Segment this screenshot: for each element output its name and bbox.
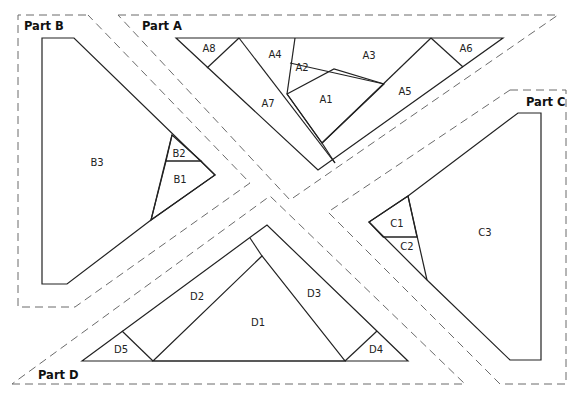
label-a5: A5: [398, 86, 411, 97]
label-a7: A7: [261, 98, 274, 109]
label-a8: A8: [202, 43, 215, 54]
part-d: [82, 225, 408, 361]
label-b1: B1: [173, 174, 186, 185]
part-d-outline: [82, 225, 408, 361]
part-b: [42, 38, 215, 284]
label-a6: A6: [459, 43, 472, 54]
label-a3: A3: [362, 50, 375, 61]
label-c3: C3: [478, 227, 491, 238]
part-a-outline: [176, 38, 503, 170]
part-c-seam-allowance: [328, 90, 566, 384]
part-a-seam-allowance: [118, 15, 558, 200]
label-b2: B2: [172, 148, 185, 159]
label-b3: B3: [90, 157, 103, 168]
part-a-title: Part A: [142, 19, 182, 33]
label-c1: C1: [390, 218, 403, 229]
seam-a1-left: [287, 94, 322, 143]
label-d3: D3: [307, 288, 321, 299]
seam-a4: [287, 38, 295, 94]
seam-d2-d3: [250, 238, 262, 256]
label-a1: A1: [319, 94, 332, 105]
seam-a6: [431, 38, 463, 67]
label-a4: A4: [268, 49, 281, 60]
part-d-title: Part D: [38, 368, 79, 382]
label-d4: D4: [369, 344, 383, 355]
seam-a5-inner: [322, 38, 431, 143]
label-c2: C2: [400, 241, 413, 252]
seam-c2-c3: [408, 196, 427, 280]
part-b-title: Part B: [24, 19, 64, 33]
part-a: [176, 38, 503, 170]
piece-a1[interactable]: [287, 69, 384, 143]
part-c: [369, 113, 541, 360]
label-d1: D1: [251, 317, 265, 328]
seam-a1-bottom: [322, 143, 335, 163]
label-d2: D2: [190, 291, 204, 302]
piece-b1[interactable]: [151, 161, 215, 220]
part-c-title: Part C: [526, 95, 566, 109]
foundation-piecing-diagram: A1 A2 A3 A4 A5 A6 A7 A8 B1 B2 B3 C1 C2 C…: [0, 0, 582, 405]
label-a2: A2: [295, 62, 308, 73]
label-d5: D5: [114, 344, 128, 355]
